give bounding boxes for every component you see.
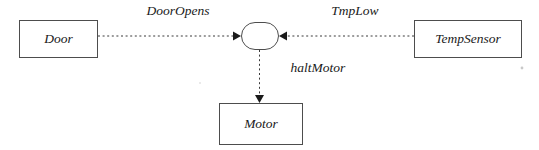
edge-junction-to-motor-arrowhead (255, 95, 264, 103)
edge-label-haltmotor: haltMotor (291, 60, 346, 75)
edge-label-dooropens: DoorOpens (146, 3, 210, 18)
node-junction-shape[interactable] (242, 23, 279, 50)
node-door-label: Door (43, 31, 73, 46)
node-tempsensor-label: TempSensor (435, 31, 501, 46)
event-flow-diagram: Door DoorOpens TmpLow TempSensor haltMot (0, 0, 539, 150)
node-door[interactable]: Door (20, 21, 98, 58)
scan-artifact-speck-secondary (199, 82, 201, 84)
edge-tempsensor-to-junction[interactable]: TmpLow (279, 3, 414, 40)
diagram-canvas-container: Door DoorOpens TmpLow TempSensor haltMot (0, 0, 539, 150)
edge-junction-to-motor[interactable]: haltMotor (255, 50, 346, 103)
scan-artifact-speck (521, 67, 524, 70)
node-motor[interactable]: Motor (220, 104, 303, 145)
edge-tempsensor-to-junction-arrowhead (279, 32, 287, 41)
node-junction[interactable] (242, 23, 279, 50)
edge-door-to-junction-arrowhead (233, 32, 241, 41)
node-motor-label: Motor (243, 116, 278, 131)
node-tempsensor[interactable]: TempSensor (415, 21, 522, 58)
edge-label-tmplow: TmpLow (331, 3, 378, 18)
edge-door-to-junction[interactable]: DoorOpens (98, 3, 241, 40)
